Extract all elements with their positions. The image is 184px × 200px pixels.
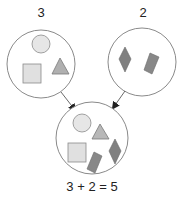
right-arrow (113, 91, 125, 108)
right-group (108, 28, 176, 96)
square-shape-icon (23, 64, 41, 83)
addition-diagram: 3 2 3 + 2 = 5 (0, 0, 184, 200)
square-shape-icon (68, 143, 86, 162)
left-group-count-label: 3 (37, 5, 44, 20)
diagram-graphics (0, 0, 184, 200)
result-group (56, 102, 128, 174)
left-group (7, 30, 75, 98)
right-group-count-label: 2 (139, 5, 146, 20)
right-group-circle (108, 28, 176, 96)
circle-shape-icon (73, 114, 91, 132)
circle-shape-icon (32, 35, 50, 53)
equation-label: 3 + 2 = 5 (66, 179, 117, 194)
